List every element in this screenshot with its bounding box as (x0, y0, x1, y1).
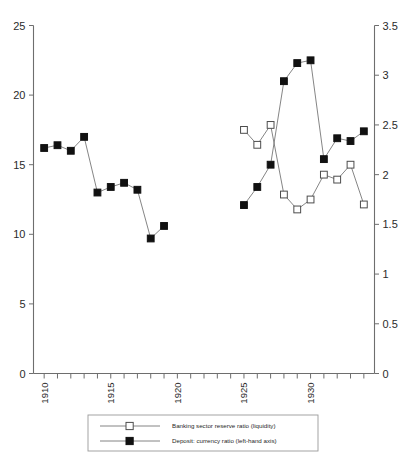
left-axis-tick-label: 20 (13, 89, 25, 101)
right-axis-tick-label: 1.5 (383, 218, 398, 230)
open-square-marker (126, 422, 133, 429)
filled-square-marker (54, 142, 61, 149)
right-axis-tick-label: 3.5 (383, 20, 398, 32)
x-axis-tick-label: 1920 (172, 383, 183, 404)
x-axis: 19101915192019251930 (34, 374, 375, 404)
chart-legend: Banking sector reserve ratio (liquidity)… (88, 415, 318, 451)
right-axis-tick-label: 0.5 (383, 318, 398, 330)
filled-square-marker (254, 184, 261, 191)
left-axis-tick-label: 15 (13, 159, 25, 171)
legend-label: Banking sector reserve ratio (liquidity) (172, 422, 276, 429)
filled-square-marker (67, 147, 74, 154)
x-axis-tick-label: 1915 (105, 383, 116, 404)
filled-square-marker (107, 184, 114, 191)
filled-square-marker (281, 78, 288, 85)
filled-square-marker (121, 179, 128, 186)
right-axis-tick-label: 0 (383, 368, 389, 380)
filled-square-marker (267, 161, 274, 168)
left-axis-tick-label: 5 (19, 298, 25, 310)
filled-square-marker (241, 202, 248, 209)
right-axis-tick-label: 2.5 (383, 119, 398, 131)
filled-square-marker (94, 189, 101, 196)
open-square-marker (241, 127, 248, 134)
data-series-layer (41, 0, 367, 242)
filled-square-marker (161, 223, 168, 230)
open-square-marker (254, 141, 261, 148)
series-deposit-currency-ratio (41, 57, 367, 242)
right-axis-tick-label: 3 (383, 69, 389, 81)
left-axis-tick-label: 0 (19, 368, 25, 380)
open-square-marker (294, 206, 301, 213)
right-axis-tick-label: 2 (383, 169, 389, 181)
chart-container: 0510152025 00.511.522.533.5 191019151920… (0, 0, 410, 465)
open-square-marker (307, 196, 314, 203)
legend-label: Deposit: currency ratio (left-hand axis) (172, 437, 277, 444)
x-axis-tick-label: 1925 (238, 383, 249, 404)
left-axis-tick-label: 25 (13, 20, 25, 32)
filled-square-marker (41, 145, 48, 152)
right-axis-tick-label: 1 (383, 268, 389, 280)
series-polyline (44, 137, 164, 239)
filled-square-marker (81, 133, 88, 140)
open-square-marker (281, 191, 288, 198)
filled-square-marker (347, 138, 354, 145)
legend-item[interactable]: Banking sector reserve ratio (liquidity) (100, 422, 276, 429)
left-axis-tick-label: 10 (13, 228, 25, 240)
left-y-axis: 0510152025 (13, 20, 33, 380)
filled-square-marker (126, 437, 133, 444)
filled-square-marker (334, 135, 341, 142)
filled-square-marker (294, 60, 301, 67)
x-axis-tick-label: 1910 (39, 383, 50, 404)
open-square-marker (267, 122, 274, 129)
open-square-marker (347, 161, 354, 168)
filled-square-marker (134, 186, 141, 193)
series-reserve-ratio (41, 0, 367, 213)
filled-square-marker (147, 235, 154, 242)
right-y-axis: 00.511.522.533.5 (375, 20, 398, 380)
legend-item[interactable]: Deposit: currency ratio (left-hand axis) (100, 437, 277, 444)
filled-square-marker (320, 156, 327, 163)
filled-square-marker (307, 57, 314, 64)
series-polyline (244, 125, 364, 210)
x-axis-tick-label: 1930 (305, 383, 316, 404)
filled-square-marker (360, 128, 367, 135)
open-square-marker (360, 201, 367, 208)
legend-border (88, 415, 318, 451)
open-square-marker (334, 176, 341, 183)
open-square-marker (320, 171, 327, 178)
series-polyline (244, 60, 364, 205)
chart-figure: 0510152025 00.511.522.533.5 191019151920… (0, 0, 410, 465)
